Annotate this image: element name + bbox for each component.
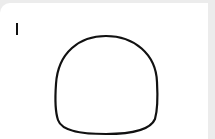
freehand-shape[interactable] (55, 36, 157, 134)
drawing-layer[interactable] (0, 0, 215, 139)
